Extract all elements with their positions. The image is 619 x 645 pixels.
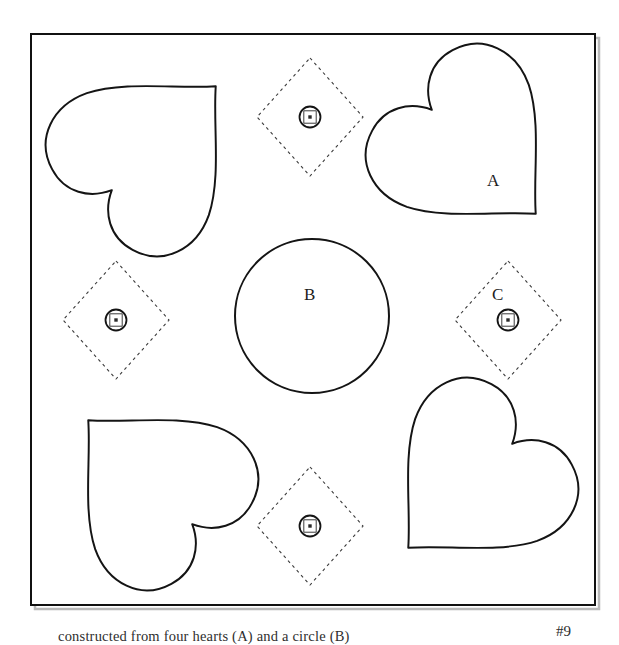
part-label-c: C xyxy=(492,286,503,303)
part-label-b: B xyxy=(304,286,315,303)
fastener-center-dot-icon xyxy=(308,524,311,527)
part-label-a: A xyxy=(487,172,499,189)
fastener-center-dot-icon xyxy=(114,318,117,321)
figure-number-tag: #9 xyxy=(556,624,571,639)
fastener-bottom xyxy=(300,516,321,537)
figure-caption: constructed from four hearts (A) and a c… xyxy=(58,628,350,645)
fastener-center-dot-icon xyxy=(308,115,311,118)
fastener-right xyxy=(498,310,519,331)
fastener-center-dot-icon xyxy=(506,318,509,321)
fastener-left xyxy=(106,310,127,331)
fastener-top xyxy=(300,107,321,128)
